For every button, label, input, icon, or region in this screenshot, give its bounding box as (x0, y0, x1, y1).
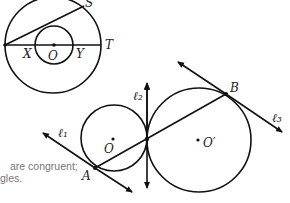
label-o-bottom: O (104, 142, 114, 156)
tangent-point (145, 137, 149, 141)
center-point-o (52, 43, 56, 47)
label-b: B (229, 81, 239, 95)
caption-text: are congruent; gles. (0, 160, 78, 184)
label-l3: ℓ₃ (272, 111, 282, 125)
label-l1: ℓ₁ (58, 126, 68, 140)
center-point-o-bottom (111, 137, 114, 140)
caption-line-1: are congruent; (0, 160, 78, 172)
label-t: T (105, 38, 114, 52)
point-a (93, 166, 97, 170)
label-l2: ℓ₂ (133, 89, 143, 103)
label-x: X (22, 47, 32, 61)
label-s: S (85, 0, 93, 10)
label-y: Y (76, 47, 85, 61)
label-o-prime: O′ (203, 136, 216, 150)
center-point-o-prime (196, 138, 199, 141)
caption-line-2: gles. (0, 172, 78, 184)
label-a: A (81, 169, 91, 183)
label-o-top: O (48, 49, 58, 63)
concentric-circles-figure: S T X O Y (3, 0, 114, 93)
point-left (3, 43, 7, 47)
point-b (224, 92, 228, 96)
tangent-circles-figure: ℓ₁ ℓ₂ ℓ₃ A B O O′ (43, 62, 282, 192)
outer-circle (5, 0, 101, 93)
